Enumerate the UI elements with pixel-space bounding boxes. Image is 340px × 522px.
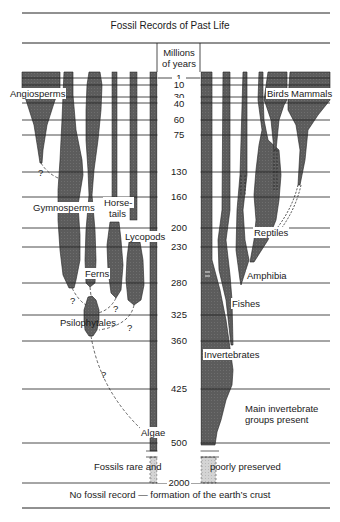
tick-230: 230: [157, 242, 201, 252]
label-mammals: Mammals: [290, 88, 333, 99]
label-angiosperms: Angiosperms: [9, 88, 66, 99]
horsetails-lower: [107, 222, 123, 298]
tick-280: 280: [157, 278, 201, 288]
angiosperms-lineage: [22, 72, 60, 163]
algae-lineage: [150, 72, 157, 451]
tick-160: 160: [157, 192, 201, 202]
axis-header-line1: Millions: [157, 47, 201, 58]
ferns-lineage: [85, 72, 102, 287]
label-lycopods: Lycopods: [124, 231, 166, 242]
question-mark-lycopods-psilo: ?: [126, 322, 133, 333]
tick-500: 500: [157, 438, 201, 448]
lycopods-lower: [126, 242, 144, 305]
tick-325: 325: [157, 310, 201, 320]
question-mark-gymno-psilo: ?: [69, 295, 76, 306]
tick-425: 425: [157, 384, 201, 394]
label-birds: Birds: [266, 88, 290, 99]
label-fishes: Fishes: [231, 298, 261, 309]
tick-40: 40: [157, 99, 201, 109]
axis-header: Millions of years: [157, 47, 201, 69]
amphibia-lineage: [236, 72, 249, 285]
tick-60: 60: [157, 115, 201, 125]
question-mark-psilo-algae: ?: [100, 369, 107, 380]
footer-note: No fossil record — formation of the eart…: [0, 489, 340, 500]
horsetails-upper: [112, 72, 117, 200]
label-psilophytales: Psilophytales: [59, 317, 117, 328]
label-main-invertebrate-2: groups present: [244, 414, 309, 425]
tick-360: 360: [157, 336, 201, 346]
label-horsetails-1: Horse-: [103, 197, 134, 208]
label-horsetails-2: tails: [108, 208, 127, 219]
label-algae: Algae: [140, 427, 166, 438]
label-gymnosperms: Gymnosperms: [32, 202, 96, 213]
label-ferns: Ferns: [84, 268, 110, 279]
diagram-title: Fossil Records of Past Life: [0, 20, 340, 31]
label-poorly-preserved: poorly preserved: [209, 461, 282, 472]
label-main-invertebrate-1: Main invertebrate: [244, 403, 319, 414]
tick-75: 75: [157, 130, 201, 140]
question-mark-angio-gymno: ?: [37, 167, 44, 178]
question-mark-horsetails-psilo: ?: [112, 303, 119, 314]
label-amphibia: Amphibia: [246, 270, 288, 281]
tick-2000: 2000: [157, 478, 201, 488]
label-reptiles: Reptiles: [253, 227, 289, 238]
tick-10: 10: [157, 80, 201, 90]
label-invertebrates: Invertebrates: [203, 349, 260, 360]
tick-130: 130: [157, 167, 201, 177]
label-fossils-rare: Fossils rare and: [93, 461, 163, 472]
psilophytales-lineage: [84, 296, 99, 336]
fossil-record-diagram: Fossil Records of Past Life Millions of …: [0, 0, 340, 522]
axis-header-line2: of years: [157, 58, 201, 69]
gymnosperms-lineage: [58, 72, 83, 288]
